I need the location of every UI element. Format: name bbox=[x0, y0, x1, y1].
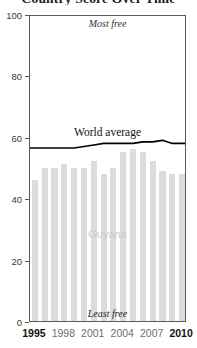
bar bbox=[32, 180, 38, 321]
annotation-most-free: Most free bbox=[30, 18, 185, 29]
x-tick-label: 1995 bbox=[22, 327, 45, 339]
annotation-world-average: World average bbox=[30, 126, 185, 138]
x-tick-label: 2004 bbox=[111, 327, 134, 339]
bar bbox=[51, 168, 57, 322]
chart-title: Country Score Over Time bbox=[0, 0, 197, 5]
chart-container: Country Score Over Time 020406080100 Mos… bbox=[0, 0, 197, 348]
x-tick-label: 1998 bbox=[52, 327, 75, 339]
y-tick-label: 100 bbox=[6, 10, 22, 21]
x-tick-label: 2007 bbox=[140, 327, 163, 339]
y-tick-label: 80 bbox=[11, 71, 22, 82]
y-tick-label: 20 bbox=[11, 255, 22, 266]
y-tick-label: 0 bbox=[17, 317, 22, 328]
x-axis: 199519982001200420072010 bbox=[29, 322, 186, 348]
bar bbox=[101, 174, 107, 321]
bar bbox=[150, 161, 156, 321]
bar bbox=[140, 152, 146, 321]
bar bbox=[179, 174, 185, 321]
bar bbox=[169, 174, 175, 321]
x-tick-label: 2001 bbox=[81, 327, 104, 339]
bar bbox=[91, 161, 97, 321]
plot-area: Most free World average Guyana Least fre… bbox=[29, 15, 186, 322]
bar bbox=[81, 168, 87, 322]
bar bbox=[130, 149, 136, 321]
bar bbox=[61, 164, 67, 321]
bar bbox=[71, 168, 77, 322]
bar bbox=[120, 152, 126, 321]
y-tick-label: 40 bbox=[11, 194, 22, 205]
bar bbox=[159, 171, 165, 321]
world-average-line bbox=[30, 140, 186, 148]
bar bbox=[110, 168, 116, 322]
y-tick-label: 60 bbox=[11, 132, 22, 143]
y-axis: 020406080100 bbox=[0, 15, 29, 322]
bar bbox=[42, 168, 48, 322]
x-tick-label: 2010 bbox=[169, 327, 192, 339]
